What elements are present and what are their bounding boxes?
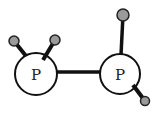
atom-h2: [50, 35, 60, 45]
atom-p2-label: P: [115, 66, 125, 84]
atom-p1: P: [15, 53, 57, 95]
atom-h3: [117, 9, 129, 21]
atom-p1-label: P: [31, 66, 41, 84]
atom-h1: [9, 36, 19, 46]
p2h4-molecule-diagram: P P: [0, 0, 157, 114]
atom-h4: [141, 97, 150, 106]
